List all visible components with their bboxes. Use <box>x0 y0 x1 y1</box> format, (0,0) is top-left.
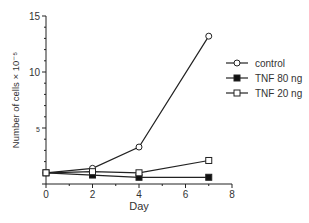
x-tick-label: 6 <box>183 189 189 200</box>
series-control <box>43 33 212 176</box>
x-tick-label: 0 <box>43 189 49 200</box>
legend-item: TNF 20 ng <box>226 88 302 99</box>
circle-marker <box>136 144 142 150</box>
data-series <box>43 33 212 180</box>
line-chart: 0246851015 Day Number of cells × 10⁻⁵ co… <box>0 0 309 223</box>
legend-label: TNF 20 ng <box>255 88 302 99</box>
legend-label: control <box>255 58 285 69</box>
axes <box>42 16 232 188</box>
x-tick-label: 2 <box>90 189 96 200</box>
square-marker <box>90 169 96 175</box>
x-tick-label: 8 <box>229 189 235 200</box>
y-tick-label: 15 <box>29 11 41 22</box>
circle-marker <box>206 33 212 39</box>
square-marker <box>206 157 212 163</box>
legend-label: TNF 80 ng <box>255 73 302 84</box>
y-axis-label: Number of cells × 10⁻⁵ <box>10 52 21 148</box>
y-tick-label: 5 <box>36 126 40 133</box>
square-marker <box>206 174 212 180</box>
circle-marker <box>234 60 240 66</box>
legend-item: TNF 80 ng <box>226 73 302 84</box>
square-marker <box>43 170 49 176</box>
x-axis-label: Day <box>129 200 149 212</box>
series-tnf-80-ng <box>43 170 212 180</box>
square-marker <box>234 75 240 81</box>
square-marker <box>234 90 240 96</box>
legend: controlTNF 80 ngTNF 20 ng <box>226 58 302 99</box>
y-tick-label: 10 <box>29 67 41 78</box>
legend-item: control <box>226 58 285 69</box>
x-tick-label: 4 <box>136 189 142 200</box>
square-marker <box>136 170 142 176</box>
series-tnf-20-ng <box>43 157 212 175</box>
